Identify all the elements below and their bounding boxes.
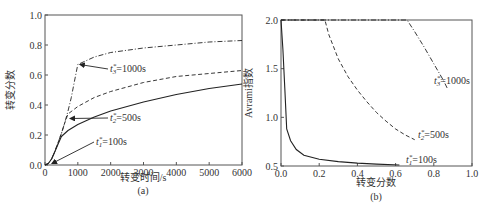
y-tick-label: 0.0 [30,160,43,171]
chart-panel-b: 0.00.20.40.60.81.00.51.01.52.0 t3*=1000s… [242,15,478,204]
x-axis-label: 转变分数 [356,176,396,188]
x-tick-label: 6000 [232,167,252,178]
series-line [45,71,242,166]
series-line [45,41,242,166]
axis-ticks: 0.00.20.40.60.81.00.51.01.52.0 [266,15,479,180]
y-tick-label: 0.6 [30,70,43,81]
series-line [281,20,399,165]
series-line [45,84,242,165]
annotation-label: t1*=100s [406,153,437,167]
x-tick-label: 4000 [166,167,186,178]
x-tick-label: 0 [43,167,48,178]
annotation-label: t3*=1000s [110,62,146,76]
x-tick-label: 1.0 [466,168,479,179]
panel-label: (a) [137,185,148,197]
plot-area-frame [45,15,242,165]
y-axis-label: Avrami指数 [242,68,254,118]
chart-panel-a: 01000200030004000500060000.00.20.40.60.8… [4,10,252,198]
annotation-label: t2*=500s [418,128,449,142]
axis-ticks: 01000200030004000500060000.00.20.40.60.8… [30,10,253,179]
x-axis-label: 转变时间/s [120,171,167,183]
data-series [45,41,242,166]
series-line [281,20,447,88]
y-tick-label: 1.5 [266,63,279,74]
annotation-label: t2*=500s [110,111,141,125]
series-line [281,20,415,140]
annotation-arrow [52,142,94,164]
y-tick-label: 0.4 [30,100,43,111]
panel-label: (b) [370,191,382,203]
y-tick-label: 2.0 [266,15,279,26]
x-tick-label: 0.8 [428,168,441,179]
annotation-arrow [80,65,108,70]
data-series [281,20,447,165]
y-axis-label: 转变分数 [4,70,16,110]
y-tick-label: 1.0 [266,112,279,123]
annotation-arrow [70,118,108,119]
plot-area-frame [281,20,472,166]
annotations: t3*=1000st2*=500st1*=100s [406,74,470,167]
x-tick-label: 5000 [199,167,219,178]
figure: 01000200030004000500060000.00.20.40.60.8… [0,0,489,216]
annotations: t3*=1000st2*=500st1*=100s [52,62,146,164]
x-tick-label: 1000 [68,167,88,178]
y-tick-label: 0.5 [266,161,279,172]
y-tick-label: 0.8 [30,40,43,51]
x-tick-label: 0.2 [313,168,326,179]
x-tick-label: 2000 [101,167,121,178]
y-tick-label: 0.2 [30,130,43,141]
y-tick-label: 1.0 [30,10,43,21]
annotation-label: t1*=100s [96,135,127,149]
annotation-label: t3*=1000s [434,74,470,88]
